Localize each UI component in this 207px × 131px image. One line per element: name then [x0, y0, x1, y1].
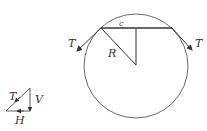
radius-line	[101, 28, 136, 65]
tension-arrow-right	[172, 28, 192, 50]
chord-label: c	[119, 19, 124, 28]
tension-right-label: T	[195, 37, 204, 50]
tension-left-label: T	[68, 37, 77, 50]
radius-label: R	[107, 47, 116, 60]
circle-chord-diagram: c R T T T V H	[0, 0, 207, 131]
triangle-V-label: V	[35, 93, 44, 106]
triangle-H-label: H	[14, 114, 25, 127]
tension-arrow-left	[77, 28, 101, 51]
